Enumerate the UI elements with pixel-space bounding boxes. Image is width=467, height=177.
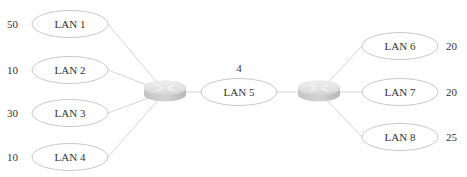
lan-label: LAN 8 — [385, 131, 416, 143]
host-count-label: 20 — [446, 40, 458, 52]
router-left-icon — [144, 81, 186, 102]
lan-node-3: LAN 330 — [7, 100, 108, 127]
host-count-label: 30 — [7, 107, 19, 119]
host-count-label: 4 — [236, 62, 242, 74]
lan-label: LAN 4 — [55, 151, 86, 163]
lan-label: LAN 2 — [55, 64, 86, 76]
host-count-label: 20 — [446, 86, 458, 98]
lan-label: LAN 7 — [385, 86, 416, 98]
lan-node-5: LAN 54 — [201, 62, 277, 106]
router-right-icon — [298, 81, 340, 102]
lan-node-6: LAN 620 — [362, 33, 458, 60]
lan-label: LAN 6 — [385, 40, 416, 52]
lan-node-1: LAN 150 — [7, 11, 108, 38]
lan-label: LAN 3 — [55, 107, 86, 119]
network-diagram: LAN 150LAN 210LAN 330LAN 410LAN 54LAN 62… — [0, 0, 467, 177]
lan-node-7: LAN 720 — [362, 79, 458, 106]
host-count-label: 10 — [7, 64, 19, 76]
host-count-label: 25 — [446, 131, 458, 143]
host-count-label: 50 — [7, 18, 19, 30]
lan-node-8: LAN 825 — [362, 124, 458, 151]
link-line — [108, 92, 165, 157]
host-count-label: 10 — [7, 151, 19, 163]
lan-node-4: LAN 410 — [7, 144, 108, 171]
lan-label: LAN 1 — [55, 18, 86, 30]
lan-node-2: LAN 210 — [7, 57, 108, 84]
lans-layer: LAN 150LAN 210LAN 330LAN 410LAN 54LAN 62… — [7, 11, 458, 171]
lan-label: LAN 5 — [224, 86, 255, 98]
